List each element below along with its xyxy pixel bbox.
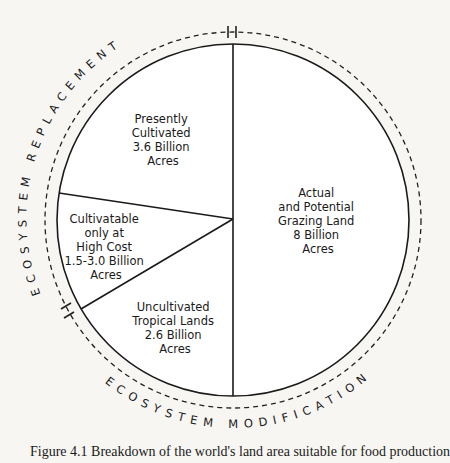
figure-caption: Figure 4.1 Breakdown of the world's land… [30, 444, 450, 463]
